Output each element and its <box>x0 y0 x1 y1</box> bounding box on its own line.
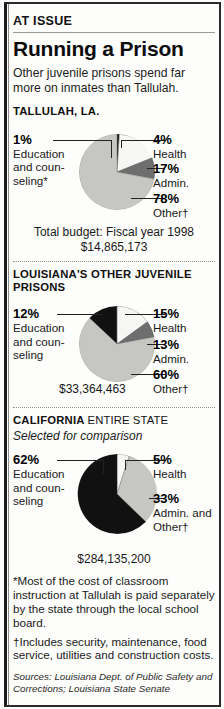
pie-chart-louisiana <box>79 306 155 382</box>
section-divider-1 <box>13 261 215 262</box>
label-other-name: Other† <box>153 382 188 395</box>
page-title: Running a Prison <box>13 38 215 60</box>
label-admin-name: Admin. <box>153 352 189 365</box>
label-health-name: Health <box>153 321 187 334</box>
label-education-pct: 62% <box>13 452 87 467</box>
footnote-dagger: †Includes security, maintenance, food se… <box>13 635 215 663</box>
frame-right-rule <box>219 2 221 707</box>
section-title-california-main: CALIFORNIA <box>13 414 84 426</box>
label-health-name: Health <box>153 467 187 480</box>
budget-tallulah-line2: $14,865,173 <box>13 240 215 255</box>
label-other-name: Other† <box>153 206 188 219</box>
label-admin-california: 33% Admin. and Other† <box>153 491 215 533</box>
label-health-california: 5% Health <box>153 452 215 481</box>
label-other-louisiana: 60% Other† <box>153 367 215 396</box>
chart-tallulah: 1% Education and coun-seling* 4% Health … <box>13 120 215 224</box>
footnote-asterisk: *Most of the cost of classroom instructi… <box>13 574 215 630</box>
label-other-tallulah: 78% Other† <box>153 191 215 220</box>
leader-health-drop <box>121 140 122 148</box>
label-health-pct: 4% <box>153 132 215 147</box>
label-education-tallulah: 1% Education and coun-seling* <box>13 132 87 187</box>
label-admin-name: Admin. and Other† <box>153 506 212 532</box>
label-health-louisiana: 15% Health <box>153 306 215 335</box>
label-health-tallulah: 4% Health <box>153 132 215 161</box>
kicker-at-issue: AT ISSUE <box>13 14 215 28</box>
budget-louisiana: $33,364,463 <box>59 382 126 396</box>
leader-education-drop <box>111 140 112 158</box>
section-title-louisiana: LOUISIANA'S OTHER JUVENILE PRISONS <box>13 268 215 294</box>
label-education-california: 62% Education and coun-seling <box>13 452 87 507</box>
leader-health-drop <box>125 460 126 470</box>
chart-california: 62% Education and coun-seling 5% Health … <box>13 444 215 556</box>
label-health-pct: 15% <box>153 306 215 321</box>
section-title-california: CALIFORNIA ENTIRE STATE <box>13 414 215 427</box>
kicker-rule <box>13 32 215 33</box>
label-other-pct: 60% <box>153 367 215 382</box>
label-education-pct: 12% <box>13 306 87 321</box>
section-title-california-sub: ENTIRE STATE <box>88 414 169 426</box>
frame-left-rule <box>4 2 7 707</box>
label-education-name: Education and coun-seling <box>13 321 65 361</box>
label-education-name: Education and coun-seling <box>13 467 65 507</box>
section-title-tallulah: TALLULAH, LA. <box>13 105 215 118</box>
pie-chart-california <box>77 454 157 534</box>
leader-education-drop <box>103 460 104 474</box>
section-subtitle-california: Selected for comparison <box>13 429 215 443</box>
deck-text: Other juvenile prisons spend far more on… <box>13 66 215 96</box>
section-divider-2 <box>13 407 215 408</box>
label-admin-name: Admin. <box>153 176 189 189</box>
label-other-pct: 78% <box>153 191 215 206</box>
frame-left-hairline <box>8 2 9 707</box>
label-education-pct: 1% <box>13 132 87 147</box>
label-admin-pct: 33% <box>153 491 215 506</box>
label-admin-louisiana: 13% Admin. <box>153 337 215 366</box>
label-education-louisiana: 12% Education and coun-seling <box>13 306 87 361</box>
label-admin-pct: 17% <box>153 161 215 176</box>
budget-tallulah: Total budget: Fiscal year 1998 $14,865,1… <box>13 225 215 255</box>
content-column: AT ISSUE Running a Prison Other juvenile… <box>13 6 215 703</box>
label-admin-pct: 13% <box>153 337 215 352</box>
budget-tallulah-line1: Total budget: Fiscal year 1998 <box>13 225 215 240</box>
infographic-page: AT ISSUE Running a Prison Other juvenile… <box>0 0 224 709</box>
label-admin-tallulah: 17% Admin. <box>153 161 215 190</box>
frame-top-rule <box>4 2 221 4</box>
label-health-pct: 5% <box>153 452 215 467</box>
label-education-name: Education and coun-seling* <box>13 147 65 187</box>
budget-louisiana-line2: $33,364,463 <box>59 382 126 396</box>
frame-bottom-rule <box>4 705 221 707</box>
chart-louisiana: 12% Education and coun-seling 15% Health… <box>13 296 215 400</box>
sources-line: Sources: Louisiana Dept. of Public Safet… <box>13 671 215 695</box>
label-health-name: Health <box>153 147 187 160</box>
